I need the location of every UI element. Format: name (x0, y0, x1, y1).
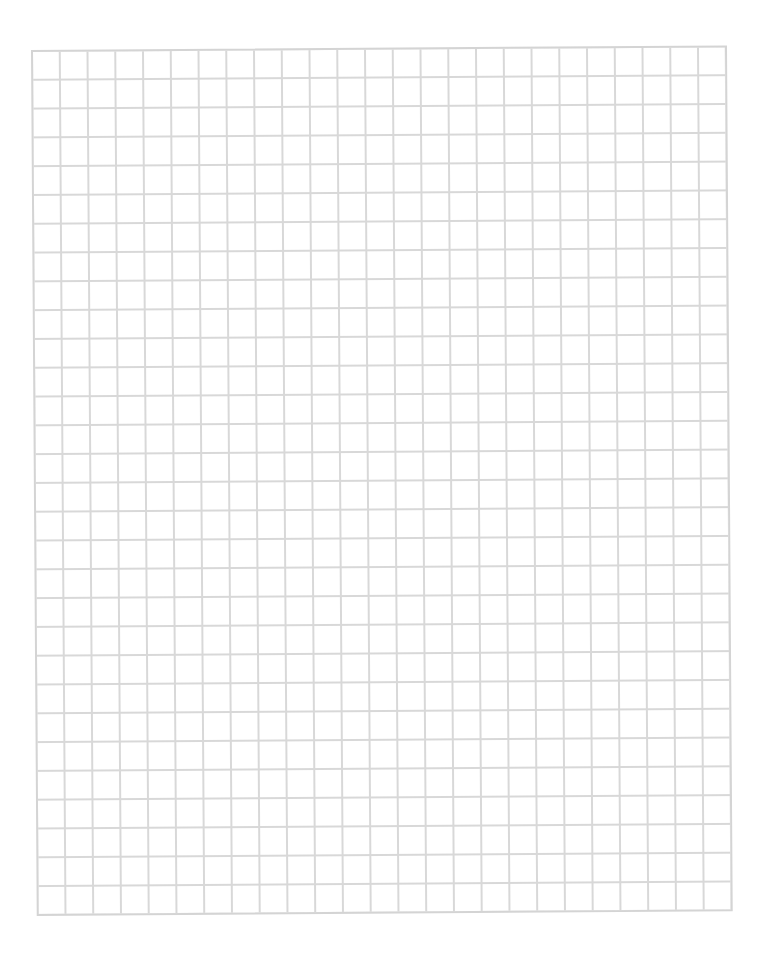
graph-paper-page (0, 0, 763, 956)
grid (31, 45, 733, 916)
